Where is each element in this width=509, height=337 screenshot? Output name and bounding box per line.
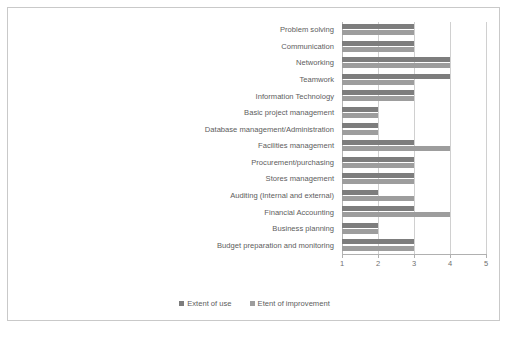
bar-extent-of-improvement [342, 146, 450, 151]
category-label: Networking [296, 58, 334, 67]
bar-extent-of-improvement [342, 113, 378, 118]
category-label: Teamwork [299, 75, 334, 84]
gridline-4 [450, 22, 451, 254]
bar-extent-of-use [342, 24, 414, 29]
tick-mark-3 [414, 254, 415, 258]
bar-extent-of-use [342, 90, 414, 95]
legend-item-improve[interactable]: Etent of improvement [250, 299, 330, 308]
category-label: Business planning [272, 224, 334, 233]
bar-extent-of-use [342, 206, 414, 211]
category-label: Communication [281, 42, 334, 51]
category-label: Facilities management [258, 141, 334, 150]
category-label: Problem solving [280, 25, 334, 34]
tick-label-3: 3 [404, 259, 424, 268]
bar-extent-of-use [342, 74, 450, 79]
bar-extent-of-use [342, 57, 450, 62]
category-label: Budget preparation and monitoring [217, 241, 334, 250]
bar-extent-of-use [342, 107, 378, 112]
tick-mark-2 [378, 254, 379, 258]
category-label: Information Technology [256, 92, 334, 101]
plot-area [342, 22, 486, 254]
bar-extent-of-improvement [342, 212, 450, 217]
legend-swatch-icon [250, 301, 255, 306]
bar-extent-of-improvement [342, 229, 378, 234]
tick-mark-1 [342, 254, 343, 258]
tick-label-2: 2 [368, 259, 388, 268]
bar-extent-of-improvement [342, 30, 414, 35]
category-label: Stores management [266, 174, 334, 183]
category-label: Financial Accounting [264, 208, 334, 217]
tick-label-5: 5 [476, 259, 496, 268]
bar-extent-of-improvement [342, 179, 414, 184]
gridline-5 [486, 22, 487, 254]
tick-mark-4 [450, 254, 451, 258]
bar-extent-of-improvement [342, 246, 414, 251]
tick-mark-5 [486, 254, 487, 258]
chart-legend: Extent of useEtent of improvement [0, 299, 509, 308]
legend-swatch-icon [179, 301, 184, 306]
bar-extent-of-use [342, 157, 414, 162]
bar-extent-of-improvement [342, 163, 414, 168]
bar-extent-of-improvement [342, 63, 450, 68]
legend-item-use[interactable]: Extent of use [179, 299, 231, 308]
bar-extent-of-use [342, 140, 414, 145]
category-label: Auditing (Internal and external) [230, 191, 334, 200]
tick-label-4: 4 [440, 259, 460, 268]
legend-label: Etent of improvement [258, 299, 330, 308]
bar-extent-of-improvement [342, 96, 414, 101]
bar-extent-of-use [342, 123, 378, 128]
legend-label: Extent of use [187, 299, 231, 308]
bar-extent-of-use [342, 41, 414, 46]
tick-label-1: 1 [332, 259, 352, 268]
category-label: Procurement/purchasing [251, 158, 334, 167]
figure-page: Problem solvingCommunicationNetworkingTe… [0, 0, 509, 337]
bar-extent-of-improvement [342, 130, 378, 135]
bar-extent-of-improvement [342, 80, 414, 85]
bar-extent-of-use [342, 173, 414, 178]
category-label: Basic project management [244, 108, 334, 117]
category-label-column: Problem solvingCommunicationNetworkingTe… [60, 22, 338, 254]
bar-extent-of-improvement [342, 47, 414, 52]
category-label: Database management/Administration [205, 125, 334, 134]
bar-extent-of-improvement [342, 196, 414, 201]
bar-extent-of-use [342, 239, 414, 244]
bar-extent-of-use [342, 190, 378, 195]
bar-extent-of-use [342, 223, 378, 228]
